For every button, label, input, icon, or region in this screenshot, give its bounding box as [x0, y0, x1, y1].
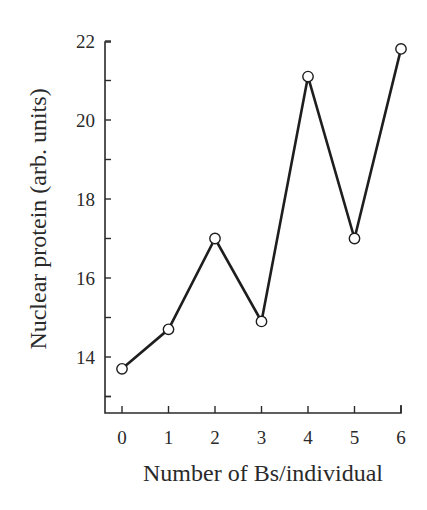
line-chart: Nuclear protein (arb. units) 1416182022 …: [0, 0, 427, 510]
y-axis-title: Nuclear protein (arb. units): [25, 88, 51, 349]
y-tick-label: 20: [76, 110, 95, 131]
data-point-marker: [210, 233, 220, 243]
y-tick-label: 22: [76, 31, 95, 52]
y-tick-label: 18: [76, 189, 95, 210]
data-point-marker: [117, 364, 127, 374]
y-tick-label: 14: [76, 347, 96, 368]
data-point-marker: [163, 324, 173, 334]
y-tick-label: 16: [76, 268, 95, 289]
x-tick-label: 6: [396, 427, 406, 448]
data-point-marker: [303, 71, 313, 81]
x-axis-title: Number of Bs/individual: [143, 460, 383, 486]
x-tick-label: 4: [303, 427, 313, 448]
x-tick-label: 5: [350, 427, 360, 448]
data-point-marker: [396, 44, 406, 54]
x-tick-label: 0: [117, 427, 127, 448]
y-axis-title-group: Nuclear protein (arb. units): [25, 88, 51, 349]
data-point-marker: [256, 316, 266, 326]
x-tick-label: 2: [210, 427, 220, 448]
data-point-marker: [349, 233, 359, 243]
x-tick-label: 3: [257, 427, 267, 448]
x-tick-label: 1: [164, 427, 174, 448]
